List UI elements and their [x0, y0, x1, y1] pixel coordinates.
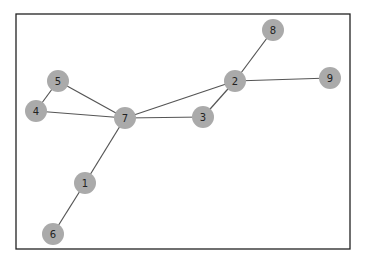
edge-7-1: [85, 118, 125, 183]
edge-7-3: [125, 117, 203, 118]
node-label: 6: [50, 229, 56, 240]
node-5: 5: [47, 70, 69, 92]
edge-4-7: [36, 111, 125, 118]
node-label: 4: [33, 106, 39, 117]
node-label: 8: [270, 25, 276, 36]
edge-5-7: [58, 81, 125, 118]
node-label: 1: [82, 178, 88, 189]
node-1: 1: [74, 172, 96, 194]
node-label: 7: [122, 113, 128, 124]
node-9: 9: [319, 67, 341, 89]
node-6: 6: [42, 223, 64, 245]
node-7: 7: [114, 107, 136, 129]
node-label: 2: [232, 76, 238, 87]
network-graph: 123456789: [0, 0, 365, 265]
edge-2-9: [235, 78, 330, 81]
node-label: 9: [327, 73, 333, 84]
node-3: 3: [192, 106, 214, 128]
node-8: 8: [262, 19, 284, 41]
node-4: 4: [25, 100, 47, 122]
edges-layer: [36, 30, 330, 234]
nodes-layer: 123456789: [25, 19, 341, 245]
node-label: 5: [55, 76, 61, 87]
node-label: 3: [200, 112, 206, 123]
node-2: 2: [224, 70, 246, 92]
